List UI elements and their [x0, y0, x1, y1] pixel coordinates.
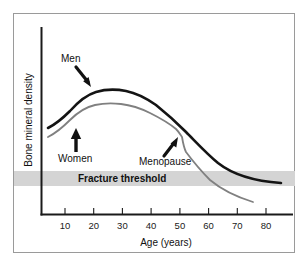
menopause-annotation-label: Menopause [139, 156, 192, 167]
x-tick-label-30: 30 [117, 220, 128, 231]
x-tick-label-60: 60 [203, 220, 214, 231]
x-tick-label-80: 80 [261, 220, 272, 231]
y-axis-title: Bone mineral density [23, 73, 34, 166]
bone-mineral-density-chart: Fracture threshold 10 20 30 40 50 [0, 0, 308, 267]
fracture-threshold-label: Fracture threshold [78, 173, 166, 184]
women-annotation-label: Women [58, 153, 92, 164]
x-axis-tick-labels: 10 20 30 40 50 60 70 80 [60, 220, 272, 231]
x-tick-label-10: 10 [60, 220, 71, 231]
figure-root: Fracture threshold 10 20 30 40 50 [0, 0, 308, 267]
x-tick-label-20: 20 [88, 220, 99, 231]
x-axis-title: Age (years) [140, 237, 192, 248]
x-tick-label-70: 70 [232, 220, 243, 231]
x-tick-label-50: 50 [175, 220, 186, 231]
men-annotation-label: Men [61, 53, 80, 64]
x-tick-label-40: 40 [146, 220, 157, 231]
